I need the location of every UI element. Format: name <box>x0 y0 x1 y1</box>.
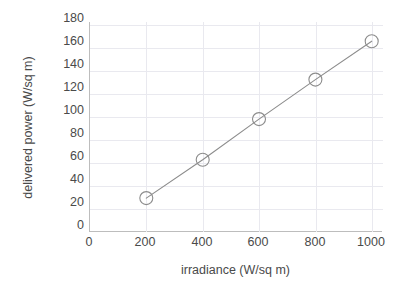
y-axis-title: delivered power (W/sq m) <box>18 15 38 240</box>
x-tick-label-0: 0 <box>86 236 93 249</box>
x-tick-label-1000: 1000 <box>357 236 385 249</box>
y-tick-label-160: 160 <box>48 35 84 48</box>
y-tick-label-20: 20 <box>48 196 84 209</box>
y-tick-label-100: 100 <box>48 104 84 117</box>
y-axis-tick-labels: 0 20 40 60 80 100 120 140 160 180 <box>48 15 84 231</box>
y-tick-label-120: 120 <box>48 81 84 94</box>
x-tick-label-400: 400 <box>192 236 213 249</box>
y-tick-label-80: 80 <box>48 127 84 140</box>
x-tick-label-800: 800 <box>305 236 326 249</box>
plot-canvas <box>90 22 383 232</box>
y-tick-label-180: 180 <box>48 12 84 25</box>
x-axis-tick-labels: 0 200 400 600 800 1000 <box>89 236 382 254</box>
x-tick-label-600: 600 <box>248 236 269 249</box>
plot-area <box>89 22 382 232</box>
chart-figure: delivered power (W/sq m) 0 20 40 60 80 1… <box>0 0 410 297</box>
y-tick-label-40: 40 <box>48 173 84 186</box>
x-tick-label-200: 200 <box>135 236 156 249</box>
y-tick-label-0: 0 <box>48 219 84 232</box>
y-tick-label-60: 60 <box>48 150 84 163</box>
vertical-gridlines <box>146 22 372 232</box>
horizontal-gridlines <box>90 25 383 209</box>
y-tick-label-140: 140 <box>48 58 84 71</box>
x-axis-title: irradiance (W/sq m) <box>89 263 382 277</box>
